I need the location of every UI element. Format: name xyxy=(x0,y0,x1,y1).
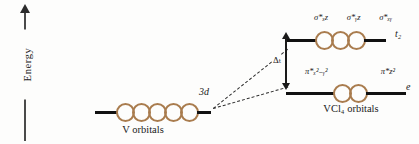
double-headed-vertical-arrow-icon xyxy=(282,83,290,90)
orbital-circle xyxy=(347,31,366,50)
e-orbital-labels: π*ₓ²₋ᵧ² π*z² xyxy=(305,66,395,76)
splitting-label-delta-t: Δₜ xyxy=(272,55,282,65)
splitting-arrow-shaft xyxy=(285,36,287,86)
orbital-label-pi-star-z2: π*z² xyxy=(381,66,395,76)
energy-axis-label: Energy xyxy=(21,30,34,100)
level-line-right xyxy=(364,39,386,42)
symmetry-label-t2: t₂ xyxy=(395,28,401,39)
mo-energy-level-diagram: Energy 3d V orbitals σ*ₓz σ*ᵧz σ*ₓᵧ t₂ π… xyxy=(0,0,419,144)
level-line-left xyxy=(286,39,316,42)
orbital-circle xyxy=(349,84,368,103)
v-orbitals-caption: V orbitals xyxy=(88,124,198,135)
orbital-label-sigma-star-xy: σ*ₓᵧ xyxy=(379,12,392,22)
orbital-label-sigma-star-yz: σ*ᵧz xyxy=(347,12,361,22)
level-line-right xyxy=(197,111,211,114)
symmetry-label-e: e xyxy=(406,81,410,92)
level-line-left xyxy=(95,111,117,114)
v-orbitals-level xyxy=(95,103,211,122)
vcl4-orbitals-caption: VCl₄ orbitals xyxy=(296,103,406,114)
level-line-left xyxy=(286,92,334,95)
orbital-label-sigma-star-xz: σ*ₓz xyxy=(314,12,328,22)
level-line-right xyxy=(366,92,406,95)
double-headed-vertical-arrow-icon xyxy=(282,32,290,39)
t2-orbital-labels: σ*ₓz σ*ᵧz σ*ₓᵧ xyxy=(314,12,392,22)
t2-level xyxy=(286,31,386,50)
orbital-label-pi-star-x2-y2: π*ₓ²₋ᵧ² xyxy=(305,66,327,76)
up-arrow-icon xyxy=(20,4,30,13)
level-label-3d: 3d xyxy=(199,86,209,97)
orbital-circle xyxy=(180,103,199,122)
e-level xyxy=(286,84,406,103)
